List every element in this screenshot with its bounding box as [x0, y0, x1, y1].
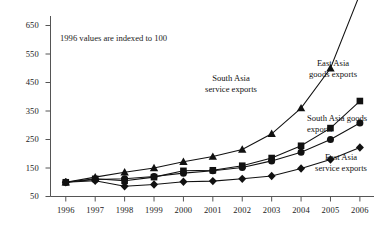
annotation-line-2: service exports: [300, 163, 382, 174]
data-point-diamond: [238, 175, 246, 183]
y-axis-tick-label: 250: [9, 134, 39, 144]
data-point-triangle: [297, 104, 305, 111]
data-point-circle: [268, 157, 275, 164]
south-asia-goods-exports-label: South Asia goods exports: [307, 113, 382, 134]
line-chart: 50150250350450550650 1996199719981999200…: [0, 0, 382, 234]
index-note: 1996 values are indexed to 100: [60, 33, 167, 43]
data-point-circle: [151, 173, 158, 180]
data-point-circle: [239, 164, 246, 171]
annotation-line-2: exports: [307, 124, 382, 135]
annotation-line-2: goods exports: [292, 69, 374, 80]
data-point-circle: [327, 136, 334, 143]
data-point-square: [298, 142, 305, 149]
data-point-diamond: [268, 172, 276, 180]
y-axis-tick-label: 50: [9, 191, 39, 201]
annotation-line-1: South Asia: [188, 73, 274, 84]
data-point-circle: [209, 167, 216, 174]
y-axis-tick-label: 650: [9, 20, 39, 30]
data-point-diamond: [209, 177, 217, 185]
x-axis-tick-label: 2006: [343, 205, 377, 215]
data-point-triangle: [238, 145, 246, 152]
x-axis-ticks: [66, 197, 360, 202]
data-point-square: [357, 98, 364, 105]
y-axis-tick-label: 450: [9, 77, 39, 87]
east-asia-service-exports-label: East Asia service exports: [300, 152, 382, 173]
y-axis-ticks: [46, 26, 51, 197]
data-point-circle: [180, 170, 187, 177]
data-point-diamond: [179, 177, 187, 185]
south-asia-service-exports-label: South Asia service exports: [188, 73, 274, 94]
data-point-diamond: [150, 180, 158, 188]
annotation-line-1: East Asia: [300, 152, 382, 163]
y-axis-tick-label: 550: [9, 49, 39, 59]
data-point-circle: [121, 175, 128, 182]
y-axis-tick-label: 350: [9, 106, 39, 116]
y-axis-tick-label: 150: [9, 163, 39, 173]
east-asia-goods-exports-label: East Asia goods exports: [292, 58, 374, 79]
annotation-line-1: East Asia: [292, 58, 374, 69]
annotation-line-1: South Asia goods: [307, 113, 382, 124]
annotation-line-2: service exports: [188, 84, 274, 95]
data-point-diamond: [356, 143, 364, 151]
